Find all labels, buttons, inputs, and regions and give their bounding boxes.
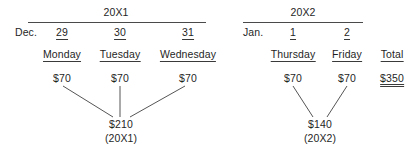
- date-cell-dec-31: 31: [182, 26, 194, 38]
- subtotal-20x1-value: $210: [109, 118, 133, 130]
- connector-dec31-to-subtotal: [130, 86, 185, 117]
- date-value: 2: [344, 26, 350, 40]
- year-rule-20x2: [243, 22, 363, 23]
- date-value: 1: [290, 26, 296, 40]
- subtotal-20x2-year: (20X2): [304, 132, 336, 144]
- payroll-accrual-diagram: 20X1 Dec. 29 30 31 Monday Tuesday Wednes…: [0, 0, 417, 155]
- year-heading-20x1: 20X1: [104, 6, 129, 18]
- connector-jan2-to-subtotal: [327, 86, 347, 117]
- connector-jan1-to-subtotal: [293, 86, 313, 117]
- date-cell-dec-30: 30: [114, 26, 126, 38]
- date-value: 29: [56, 26, 68, 40]
- subtotal-20x2-value: $140: [308, 118, 332, 130]
- weekday-value: Monday: [43, 48, 81, 62]
- year-rule-20x1: [28, 22, 206, 23]
- weekday-cell-friday: Friday: [332, 48, 362, 60]
- weekday-cell-thursday: Thursday: [271, 48, 316, 60]
- total-column-header: Total: [381, 48, 404, 60]
- grand-total-amount: $350: [380, 72, 404, 84]
- connector-dec29-to-subtotal: [63, 86, 113, 117]
- weekday-value: Wednesday: [160, 48, 216, 62]
- total-header-value: Total: [381, 48, 404, 62]
- month-label-dec: Dec.: [15, 26, 37, 38]
- weekday-cell-wednesday: Wednesday: [160, 48, 216, 60]
- amount-dec-29: $70: [53, 72, 71, 84]
- weekday-value: Friday: [332, 48, 362, 62]
- date-cell-jan-2: 2: [344, 26, 350, 38]
- date-value: 30: [114, 26, 126, 40]
- month-label-jan: Jan.: [243, 26, 263, 38]
- weekday-cell-monday: Monday: [43, 48, 81, 60]
- year-heading-20x2: 20X2: [291, 6, 316, 18]
- grand-total-value: $350: [380, 72, 404, 87]
- amount-dec-30: $70: [111, 72, 129, 84]
- date-value: 31: [182, 26, 194, 40]
- subtotal-20x1-year: (20X1): [105, 132, 137, 144]
- weekday-cell-tuesday: Tuesday: [100, 48, 141, 60]
- weekday-value: Tuesday: [100, 48, 141, 62]
- amount-jan-2: $70: [338, 72, 356, 84]
- weekday-value: Thursday: [271, 48, 316, 62]
- date-cell-dec-29: 29: [56, 26, 68, 38]
- amount-jan-1: $70: [284, 72, 302, 84]
- amount-dec-31: $70: [179, 72, 197, 84]
- date-cell-jan-1: 1: [290, 26, 296, 38]
